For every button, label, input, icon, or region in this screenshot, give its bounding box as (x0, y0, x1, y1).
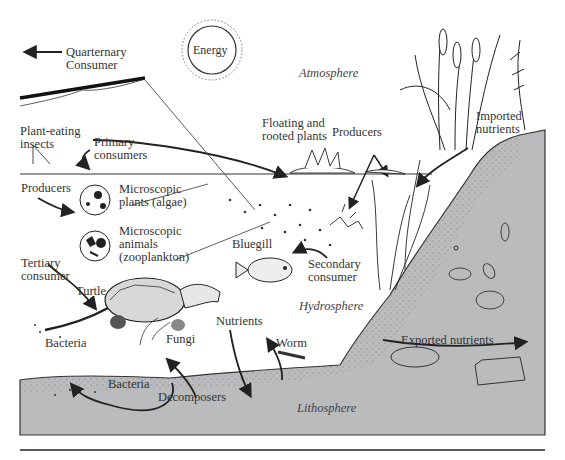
producers-left-label: Producers (21, 182, 71, 195)
floating-rooted-plants-label: Floating and rooted plants (262, 117, 327, 143)
tertiary-consumer-label: Tertiary consumer (21, 257, 70, 283)
water-lily-illustration (290, 148, 405, 174)
exported-nutrients-label: Exported nutrients (401, 334, 494, 347)
ecosystem-diagram: Energy Quarternary Consumer Atmosphere P… (0, 0, 565, 460)
turtle-illustration (45, 278, 220, 331)
atmosphere-label: Atmosphere (299, 67, 358, 80)
imported-arrow (418, 148, 468, 185)
imported-nutrients-label: Imported nutrients (476, 110, 522, 136)
worm-illustration (278, 352, 305, 358)
worm-label: Worm (276, 337, 307, 350)
microscopic-animals-label: Microscopic animals (zooplankton) (119, 225, 189, 264)
producers-right-label: Producers (332, 126, 382, 139)
bluegill-fish-illustration (236, 258, 292, 282)
secondary-consumer-label: Secondary consumer (308, 258, 361, 284)
fungi-label: Fungi (166, 333, 195, 346)
bacteria-surface-label: Bacteria (45, 337, 87, 350)
turtle-label: Turtle (76, 285, 106, 298)
plant-eating-insects-label: Plant-eating insects (20, 125, 80, 151)
bluegill-label: Bluegill (232, 238, 272, 251)
nutrients-label: Nutrients (216, 315, 263, 328)
lithosphere-label: Lithosphere (297, 402, 356, 415)
primary-consumers-label: Primary consumers (94, 136, 147, 162)
hydrosphere-label: Hydrosphere (299, 300, 363, 313)
microscopic-plants-label: Microscopic plants (algae) (119, 183, 187, 209)
producers-arrow (38, 198, 72, 212)
quarternary-consumer-label: Quarternary Consumer (66, 46, 126, 72)
decomposers-label: Decomposers (158, 391, 226, 404)
energy-label: Energy (193, 44, 227, 57)
microscopic-plants-icon (80, 185, 110, 215)
microscopic-animals-icon (80, 231, 110, 261)
bacteria-soil-label: Bacteria (108, 378, 150, 391)
